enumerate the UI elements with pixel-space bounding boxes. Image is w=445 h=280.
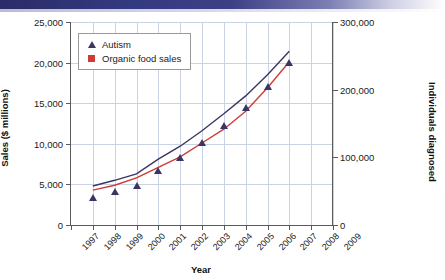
x-axis-title: Year [191, 264, 211, 275]
legend-label: Organic food sales [102, 53, 181, 64]
y-axis-left-label: 15,000 [34, 98, 63, 109]
triangle-marker-icon [111, 171, 119, 189]
x-axis-tick [311, 225, 312, 230]
right-axis-line [332, 22, 333, 225]
x-axis-label: 1999 [124, 231, 145, 252]
x-axis-tick [158, 225, 159, 230]
y-axis-right-label: 200,000 [340, 84, 374, 95]
x-axis-tick [268, 225, 269, 230]
y-axis-left-label: 0 [58, 220, 63, 231]
triangle-marker-icon [220, 105, 228, 123]
x-axis-tick [289, 225, 290, 230]
x-axis-tick [180, 225, 181, 230]
triangle-marker-icon [242, 87, 250, 105]
x-axis-label: 2007 [298, 231, 319, 252]
x-axis-label: 2005 [255, 231, 276, 252]
x-axis-label: 1997 [80, 231, 101, 252]
gridline-vertical [333, 22, 334, 225]
x-axis-tick [224, 225, 225, 230]
x-axis-label: 1998 [102, 231, 123, 252]
legend-label: Autism [102, 39, 131, 50]
square-marker-icon [86, 55, 97, 61]
y-axis-right-tick [333, 22, 338, 23]
legend-item-organic-food-sales: Organic food sales [86, 52, 181, 65]
series-line [93, 51, 289, 186]
x-axis-label: 2003 [211, 231, 232, 252]
triangle-marker-icon [89, 177, 97, 195]
y-axis-right-label: 0 [340, 220, 345, 231]
legend-item-autism: Autism [86, 38, 181, 51]
triangle-marker-icon [86, 41, 97, 48]
header-gradient-bar [0, 0, 445, 9]
triangle-marker-icon [133, 165, 141, 183]
x-axis-label: 2006 [276, 231, 297, 252]
chart-legend: Autism Organic food sales [78, 33, 191, 70]
x-axis-tick [137, 225, 138, 230]
y-axis-right-label: 100,000 [340, 152, 374, 163]
x-axis-label: 2008 [320, 231, 341, 252]
y-axis-right-tick [333, 157, 338, 158]
y-axis-right-label: 300,000 [340, 17, 374, 28]
x-axis-label: 2009 [342, 231, 363, 252]
x-axis-tick [202, 225, 203, 230]
triangle-marker-icon [285, 42, 293, 60]
y-axis-left-label: 5,000 [39, 179, 63, 190]
y-axis-right-tick [333, 90, 338, 91]
y-axis-left-label: 20,000 [34, 57, 63, 68]
triangle-marker-icon [176, 137, 184, 155]
series-line [93, 62, 289, 190]
y-axis-left-title: Sales ($ millions) [0, 89, 10, 167]
x-axis-label: 2001 [167, 231, 188, 252]
x-axis-tick [115, 225, 116, 230]
x-axis-label: 2002 [189, 231, 210, 252]
y-axis-left-label: 25,000 [34, 17, 63, 28]
header-gradient-shadow [0, 9, 445, 12]
x-axis-tick [333, 225, 334, 230]
x-axis-label: 2004 [233, 231, 254, 252]
y-axis-left-label: 10,000 [34, 138, 63, 149]
triangle-marker-icon [264, 66, 272, 84]
triangle-marker-icon [154, 150, 162, 168]
chart-page: Sales ($ millions) Individuals diagnosed… [0, 0, 445, 280]
x-axis-tick [71, 225, 72, 230]
x-axis-tick [93, 225, 94, 230]
y-axis-right-title: Individuals diagnosed [427, 82, 438, 182]
x-axis-label: 2000 [145, 231, 166, 252]
triangle-marker-icon [198, 122, 206, 140]
x-axis-tick [246, 225, 247, 230]
